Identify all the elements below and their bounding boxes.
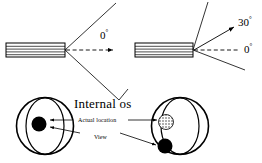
left-cross-section: [17, 98, 74, 155]
view-label: View: [94, 134, 107, 140]
transducer-left: [6, 43, 65, 57]
figure-canvas: 0° 30° 0° Internal os Actual location Vi…: [0, 0, 262, 163]
view-leader-right: [120, 133, 156, 145]
internal-os-label: Internal os: [74, 97, 131, 110]
angle-label-thirty: 30°: [238, 17, 252, 28]
thirty-degree-arrow: [194, 27, 234, 50]
diagram-vector-layer: [0, 0, 262, 163]
top-left-probe-group: [6, 3, 119, 100]
observed-dot-right: [158, 139, 173, 154]
angle-label-zero-left: 0°: [100, 30, 108, 41]
angle-label-zero-right: 0°: [244, 44, 252, 55]
right-cross-section: [152, 98, 209, 155]
stippled-dot-right: [159, 115, 174, 130]
beam-line-lower-right: [193, 50, 245, 70]
actual-location-label: Actual location: [78, 117, 116, 123]
actual-location-dot-left: [32, 117, 47, 132]
beam-line-lower: [65, 50, 119, 100]
beam-line-upper: [65, 3, 116, 50]
top-right-probe-group: [135, 2, 245, 70]
transducer-right: [135, 43, 193, 57]
